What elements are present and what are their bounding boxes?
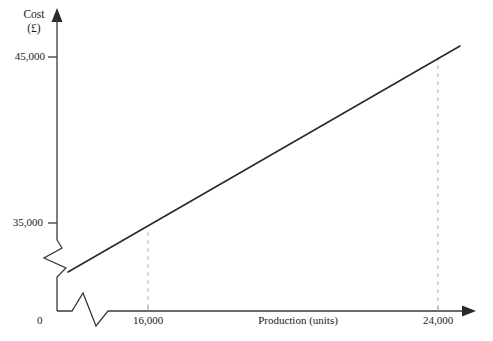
x-axis-title: Production (units) <box>218 314 378 326</box>
x-tick-label-16000: 16,000 <box>118 314 178 326</box>
origin-label-zero: 0 <box>37 314 43 326</box>
dashed-guides <box>148 57 438 309</box>
cost-line <box>68 46 460 272</box>
y-axis <box>44 8 66 311</box>
y-tick-label-35000: 35,000 <box>0 216 43 228</box>
x-tick-label-24000: 24,000 <box>408 314 468 326</box>
y-axis-title-unit: (£) <box>14 22 54 35</box>
chart-canvas <box>0 0 493 341</box>
cost-line-series <box>68 46 460 272</box>
y-tick-label-45000: 45,000 <box>0 50 45 62</box>
y-axis-title-cost: Cost <box>14 8 54 21</box>
y-axis-break-zigzag <box>44 240 66 311</box>
cost-production-chart: Cost (£) 45,000 35,000 0 16,000 24,000 P… <box>0 0 493 341</box>
